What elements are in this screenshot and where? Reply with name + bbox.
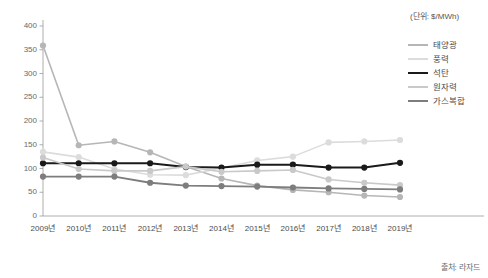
legend-item-4[interactable]: 가스복합 <box>408 97 465 106</box>
legend-item-0[interactable]: 태양광 <box>408 41 465 50</box>
y-tick-label-6: 300 <box>11 70 37 78</box>
legend-swatch-icon <box>408 100 428 102</box>
legend-item-1[interactable]: 풍력 <box>408 55 465 64</box>
y-tick-label-4: 200 <box>11 117 37 125</box>
legend-item-2[interactable]: 석탄 <box>408 69 465 78</box>
legend-swatch-icon <box>408 72 428 74</box>
legend-label: 가스복합 <box>433 97 465 106</box>
legend-label: 태양광 <box>433 41 457 50</box>
legend-item-3[interactable]: 원자력 <box>408 83 465 92</box>
legend-swatch-icon <box>408 58 428 60</box>
y-tick-label-7: 350 <box>11 46 37 54</box>
legend-label: 원자력 <box>433 83 457 92</box>
legend-swatch-icon <box>408 44 428 46</box>
legend-label: 풍력 <box>433 55 449 64</box>
y-tick-label-2: 100 <box>11 165 37 173</box>
y-tick-marks <box>40 26 44 216</box>
x-tick-label-10: 2019년 <box>375 225 425 233</box>
y-tick-label-5: 250 <box>11 93 37 101</box>
legend-swatch-icon <box>408 86 428 88</box>
y-tick-label-0: 0 <box>11 212 37 220</box>
legend-label: 석탄 <box>433 69 449 78</box>
chart-container: (단위: $/MWh) 050100150200250300350400 200… <box>0 0 488 278</box>
chart-legend: 태양광풍력석탄원자력가스복합 <box>408 41 465 106</box>
source-note: 출처: 라자드 <box>441 261 480 272</box>
y-tick-label-8: 400 <box>11 22 37 30</box>
y-tick-label-1: 50 <box>11 188 37 196</box>
y-tick-label-3: 150 <box>11 141 37 149</box>
